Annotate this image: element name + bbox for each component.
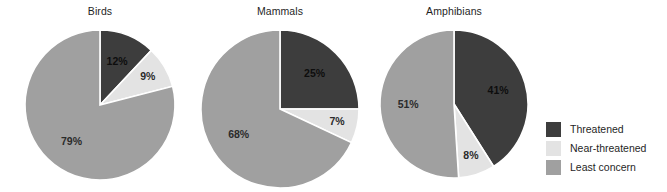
pie-chart-figure: Birds 12%9%79% Mammals 25%7%68% Amphibia… — [0, 0, 667, 192]
slice-label-threatened: 41% — [488, 84, 510, 96]
chart-title-mammals: Mammals — [201, 5, 359, 17]
chart-title-amphibians: Amphibians — [379, 5, 529, 17]
legend-item-threatened: Threatened — [546, 120, 664, 138]
legend-item-near-threatened: Near-threatened — [546, 139, 664, 157]
slice-label-near-threatened: 7% — [329, 115, 345, 127]
legend-swatch-threatened — [546, 122, 561, 137]
pie-panel-birds: Birds 12%9%79% — [25, 5, 175, 185]
chart-title-birds: Birds — [25, 5, 175, 17]
slice-label-near-threatened: 9% — [140, 70, 156, 82]
slice-label-least-concern: 68% — [228, 128, 250, 140]
slice-label-near-threatened: 8% — [463, 149, 479, 161]
pie-chart-amphibians: 41%8%51% — [377, 27, 531, 181]
pie-svg-mammals-container: 25%7%68% — [198, 27, 362, 192]
pie-svg-birds-container: 12%9%79% — [22, 27, 178, 187]
legend-swatch-least-concern — [546, 160, 561, 175]
pie-chart-birds: 12%9%79% — [22, 27, 178, 183]
legend-label-threatened: Threatened — [570, 124, 624, 135]
pie-panel-amphibians: Amphibians 41%8%51% — [379, 5, 529, 192]
pie-chart-mammals: 25%7%68% — [198, 27, 362, 191]
pie-slice-least-concern — [380, 30, 459, 178]
pie-panel-mammals: Mammals 25%7%68% — [201, 5, 359, 190]
legend-label-least-concern: Least concern — [570, 162, 636, 173]
slice-label-least-concern: 79% — [61, 135, 83, 147]
legend-item-least-concern: Least concern — [546, 158, 664, 176]
pie-svg-amphibians-container: 41%8%51% — [377, 27, 531, 185]
slice-label-threatened: 25% — [304, 67, 326, 79]
chart-legend: Threatened Near-threatened Least concern — [546, 120, 664, 177]
slice-label-threatened: 12% — [107, 55, 129, 67]
legend-swatch-near-threatened — [546, 141, 561, 156]
slice-label-least-concern: 51% — [398, 98, 420, 110]
legend-label-near-threatened: Near-threatened — [570, 143, 646, 154]
